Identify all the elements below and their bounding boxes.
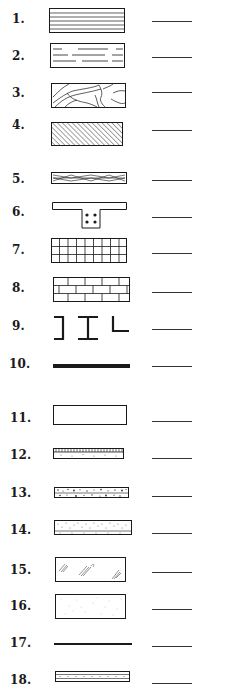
answer-blank-line[interactable] [152,329,192,330]
item-number: 12. [10,448,31,462]
item-number: 14. [10,523,31,537]
answer-blank-line[interactable] [152,609,192,610]
answer-blank-line[interactable] [152,366,192,367]
item-number: 3. [12,86,25,100]
item-number: 11. [10,411,31,425]
item-number: 5. [12,172,25,186]
item-number: 7. [12,243,25,257]
answer-blank-line[interactable] [152,217,192,218]
empty-rectangle-symbol-icon [53,405,127,425]
tick-stipple-strip-symbol-icon [53,448,125,460]
answer-blank-line[interactable] [152,180,192,181]
square-grid-symbol-icon [51,238,128,264]
answer-blank-line[interactable] [152,646,192,647]
answer-blank-line[interactable] [152,496,192,497]
layered-stipple-strip-symbol-icon [55,671,131,683]
item-number: 10. [9,357,30,371]
item-number: 8. [12,281,25,295]
item-number: 6. [12,205,25,219]
dashed-lines-symbol-icon [50,43,126,69]
answer-blank-line[interactable] [152,21,192,22]
answer-blank-line[interactable] [152,533,192,534]
answer-blank-line[interactable] [152,683,192,684]
item-number: 18. [10,673,31,686]
answer-blank-line[interactable] [152,253,192,254]
answer-blank-line[interactable] [152,292,192,293]
thick-bar-symbol-icon [53,364,130,368]
answer-blank-line[interactable] [152,458,192,459]
answer-blank-line[interactable] [152,421,192,422]
brick-bond-symbol-icon [53,277,131,303]
answer-blank-line[interactable] [152,130,192,131]
item-number: 17. [10,636,31,650]
aggregate-strip-symbol-icon [54,487,130,499]
item-number: 13. [10,486,31,500]
irregular-stone-symbol-icon [51,83,127,109]
thin-solid-line-symbol-icon [54,643,132,645]
item-number: 16. [10,599,31,613]
answer-blank-line[interactable] [152,572,192,573]
item-number: 9. [12,319,25,333]
light-stipple-rectangle-symbol-icon [55,594,127,620]
answer-blank-line[interactable] [152,92,192,93]
wood-grain-symbol-icon [51,172,128,185]
glass-symbol-icon [55,557,127,583]
fine-stipple-strip-symbol-icon [54,520,133,536]
tee-beam-symbol-icon [52,202,128,229]
diagonal-hatch-symbol-icon [51,122,124,147]
item-number: 4. [12,118,25,132]
horizontal-lines-symbol-icon [49,8,126,34]
item-number: 15. [10,563,31,577]
steel-shapes-symbol-icon [53,315,131,341]
item-number: 1. [12,12,25,26]
item-number: 2. [12,49,25,63]
answer-blank-line[interactable] [152,57,192,58]
